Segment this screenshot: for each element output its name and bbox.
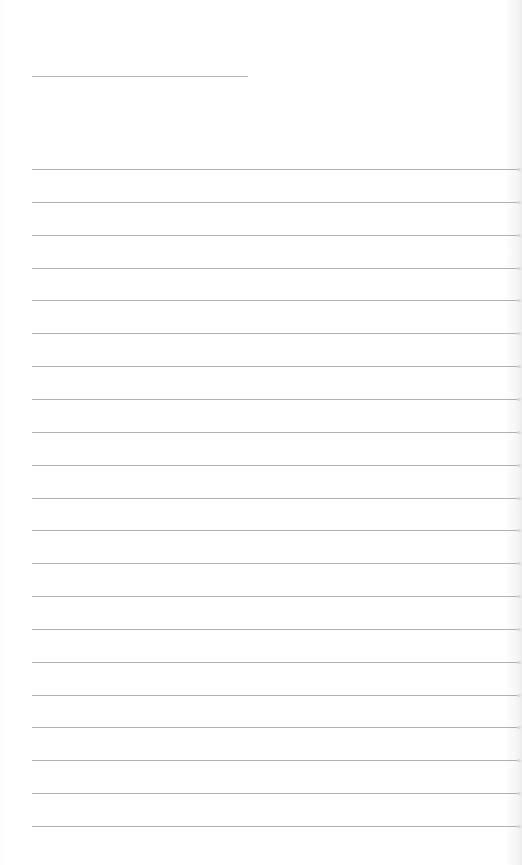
ruled-line [32, 662, 518, 663]
ruled-line [32, 498, 518, 499]
ruled-line [32, 268, 518, 269]
ruled-line [32, 465, 518, 466]
ruled-line [32, 760, 518, 761]
ruled-line [32, 530, 518, 531]
ruled-line [32, 169, 518, 170]
ruled-line [32, 695, 518, 696]
ruled-line [32, 727, 518, 728]
ruled-line [32, 563, 518, 564]
ruled-line [32, 596, 518, 597]
ruled-line [32, 629, 518, 630]
ruled-line [32, 432, 518, 433]
lined-paper-page [0, 0, 522, 865]
ruled-line [32, 333, 518, 334]
ruled-line [32, 826, 518, 827]
title-underline [32, 76, 248, 77]
ruled-line [32, 399, 518, 400]
ruled-line [32, 235, 518, 236]
ruled-line [32, 366, 518, 367]
ruled-line [32, 300, 518, 301]
ruled-line [32, 793, 518, 794]
ruled-line [32, 202, 518, 203]
